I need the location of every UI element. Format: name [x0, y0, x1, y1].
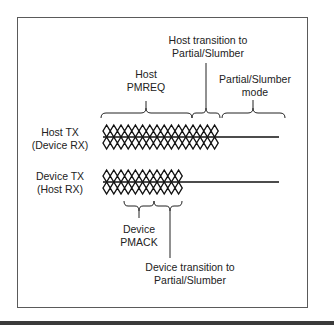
diagram-canvas: Host TX (Device RX) Device TX (Host RX) …: [0, 0, 334, 325]
device-transition-line2: Partial/Slumber: [135, 274, 245, 287]
partial-slumber-mode-annotation: Partial/Slumber mode: [210, 73, 300, 99]
brace-device-pmack: [124, 201, 154, 211]
device-pmack-line1: Device: [109, 223, 169, 236]
device-tx-signal: [103, 170, 279, 194]
host-tx-label: Host TX (Device RX): [24, 126, 96, 152]
device-tx-label-name: Device TX: [24, 170, 96, 183]
device-pmack-annotation: Device PMACK: [109, 223, 169, 249]
brace-partial-slumber-mode: [222, 108, 285, 118]
host-transition-line2: Partial/Slumber: [163, 47, 253, 60]
host-tx-label-sub: (Device RX): [24, 139, 96, 152]
partial-slumber-mode-line2: mode: [210, 86, 300, 99]
device-transition-annotation: Device transition to Partial/Slumber: [135, 261, 245, 287]
host-transition-annotation: Host transition to Partial/Slumber: [163, 34, 253, 60]
host-pmreq-line1: Host: [116, 68, 176, 81]
device-tx-label-sub: (Host RX): [24, 183, 96, 196]
device-tx-label: Device TX (Host RX): [24, 170, 96, 196]
host-transition-line1: Host transition to: [163, 34, 253, 47]
host-tx-signal: [103, 125, 279, 149]
device-pmack-line2: PMACK: [109, 236, 169, 249]
device-transition-line1: Device transition to: [135, 261, 245, 274]
host-tx-label-name: Host TX: [24, 126, 96, 139]
brace-host-pmreq: [101, 108, 192, 118]
host-pmreq-line2: PMREQ: [116, 81, 176, 94]
host-pmreq-annotation: Host PMREQ: [116, 68, 176, 94]
brace-host-transition: [192, 108, 220, 118]
partial-slumber-mode-line1: Partial/Slumber: [210, 73, 300, 86]
brace-device-transition: [154, 201, 182, 211]
